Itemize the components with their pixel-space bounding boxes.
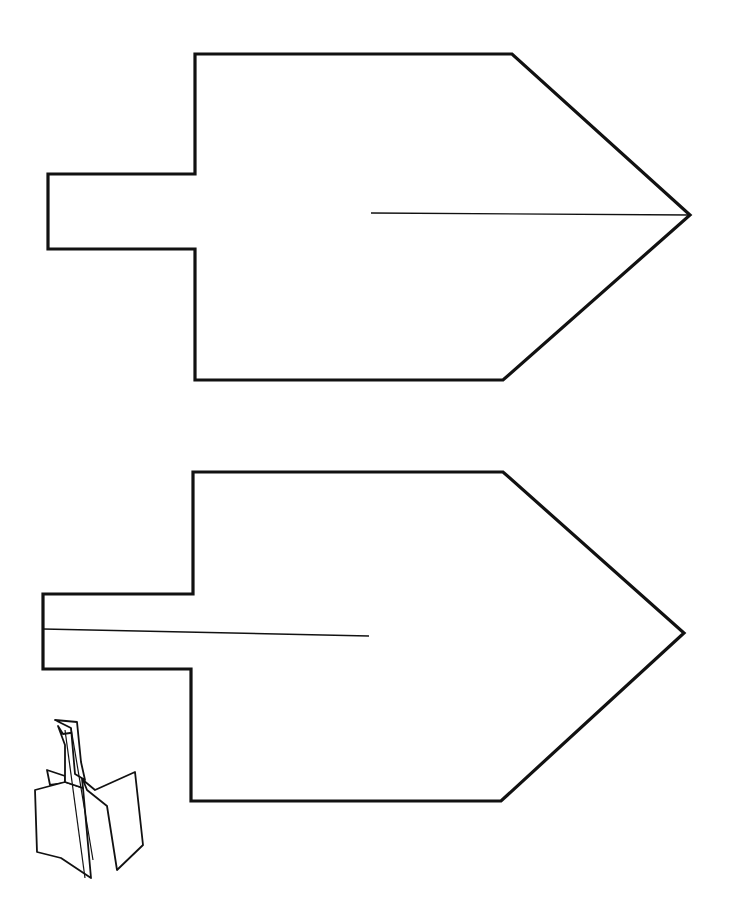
- top-piece-outline: [48, 54, 690, 380]
- bottom-dreidel-piece: [43, 472, 684, 801]
- assembled-dreidel-icon: [35, 720, 143, 878]
- top-dreidel-piece: [48, 54, 690, 380]
- dreidel-template-canvas: [0, 0, 731, 901]
